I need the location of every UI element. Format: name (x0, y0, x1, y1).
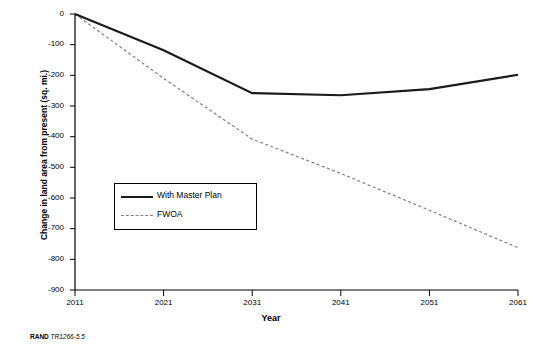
x-tick-label: 2051 (409, 298, 449, 307)
y-tick-label: 0 (30, 9, 64, 18)
credit-ref: TR1266-5.5 (51, 333, 85, 340)
x-tick-label: 2011 (55, 298, 95, 307)
figure-credit: RAND TR1266-5.5 (30, 333, 85, 340)
chart-figure: 0 -100 -200 -300 -400 -500 -600 -700 -80… (0, 0, 542, 355)
legend-swatch-with-master-plan (121, 196, 153, 198)
y-tick-label: -900 (30, 285, 64, 294)
credit-org: RAND (30, 333, 49, 340)
x-tick-label: 2021 (144, 298, 184, 307)
y-axis-title: Change in land area from present (sq. mi… (39, 25, 49, 285)
x-tick-marks (75, 290, 518, 296)
legend-swatch-fwoa (121, 215, 153, 216)
x-axis-title: Year (0, 313, 542, 323)
legend-label-with-master-plan: With Master Plan (157, 190, 222, 200)
series-line-with-master-plan (75, 14, 518, 95)
y-tick-marks (70, 14, 75, 290)
x-tick-label: 2031 (232, 298, 272, 307)
legend-label-fwoa: FWOA (157, 209, 183, 219)
chart-legend: With Master Plan FWOA (114, 183, 257, 230)
x-tick-label: 2041 (321, 298, 361, 307)
x-tick-label: 2061 (498, 298, 538, 307)
